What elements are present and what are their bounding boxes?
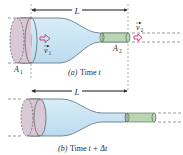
- svg-text:A: A: [13, 65, 19, 74]
- caption-a: (a) Time t: [68, 68, 102, 77]
- svg-text:2: 2: [141, 27, 144, 33]
- svg-text:v: v: [44, 46, 48, 55]
- svg-text:1: 1: [20, 69, 23, 75]
- wide-disc-front: [34, 99, 46, 136]
- narrow-cylinder: [127, 113, 154, 122]
- panel-b: L (b) Time t + Δt: [8, 86, 182, 153]
- fluid-flow-diagram: L v 1 v 2 A: [0, 0, 183, 155]
- svg-text:A: A: [112, 44, 118, 53]
- wide-disc-back: [21, 99, 33, 136]
- velocity-label-2: v 2: [136, 23, 144, 33]
- panel-a: L v 1 v 2 A: [8, 4, 182, 92]
- svg-text:2: 2: [119, 48, 122, 54]
- svg-text:v: v: [136, 23, 140, 32]
- velocity-arrow-2-icon: [134, 34, 142, 41]
- wide-disc-back: [10, 18, 24, 63]
- area-label-1: A 1: [13, 65, 23, 75]
- narrow-cylinder: [102, 33, 128, 42]
- length-label: L: [73, 6, 79, 16]
- length-label: L: [73, 87, 79, 97]
- area-label-2: A 2: [112, 44, 122, 54]
- caption-b: (b) Time t + Δt: [58, 144, 108, 153]
- svg-text:1: 1: [49, 50, 52, 56]
